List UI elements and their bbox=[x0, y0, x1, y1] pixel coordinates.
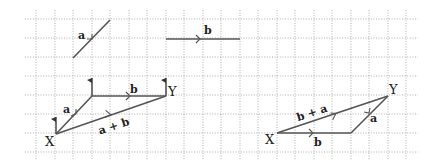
right-point-x: X bbox=[265, 132, 275, 147]
flag-icon bbox=[51, 117, 56, 122]
left-a-label: a bbox=[63, 103, 70, 116]
right-figure-b-plus-a: b + a a b X Y bbox=[265, 82, 398, 149]
vector-diagram: a b a b a + b X Y b + a a b X bbox=[0, 0, 436, 168]
left-point-x: X bbox=[45, 134, 55, 149]
vector-a: a bbox=[73, 20, 110, 58]
left-figure-a-plus-b: a b a + b X Y bbox=[45, 78, 177, 149]
right-a-label: a bbox=[370, 112, 377, 125]
flag-icon bbox=[161, 78, 166, 83]
right-b-label: b bbox=[314, 136, 322, 149]
left-point-y: Y bbox=[167, 84, 177, 99]
left-b-label: b bbox=[130, 83, 138, 96]
vector-b-label: b bbox=[204, 24, 212, 37]
vector-a-label: a bbox=[78, 29, 85, 42]
right-point-y: Y bbox=[388, 82, 398, 97]
flag-icon bbox=[87, 78, 92, 83]
